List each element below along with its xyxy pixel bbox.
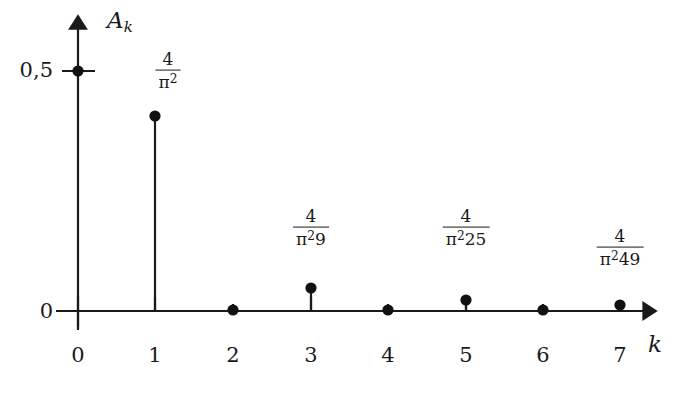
pi-exponent: 2 bbox=[170, 71, 178, 85]
x-tick-label-2: 2 bbox=[226, 345, 239, 366]
pi-symbol: π bbox=[600, 249, 611, 269]
annotation-k5-denominator: π225 bbox=[443, 228, 490, 248]
y-axis-label-name: A bbox=[107, 7, 124, 33]
pi-exponent: 2 bbox=[307, 228, 315, 242]
annotation-k1-denominator: π2 bbox=[156, 71, 181, 91]
annotation-k3-numerator: 4 bbox=[293, 208, 329, 227]
data-point-k0 bbox=[72, 65, 83, 76]
x-axis-label: k bbox=[648, 333, 662, 356]
data-point-k7 bbox=[614, 299, 625, 310]
x-axis-label-name: k bbox=[648, 331, 662, 357]
annotation-k3-denominator: π29 bbox=[293, 228, 329, 248]
y-tick-label-zero: 0 bbox=[40, 301, 53, 322]
annotation-k1: 4 π2 bbox=[156, 51, 181, 92]
x-tick-label-0: 0 bbox=[71, 345, 84, 366]
annotation-k1-numerator: 4 bbox=[156, 51, 181, 70]
fraction-bar-icon bbox=[597, 246, 644, 247]
pi-exponent: 2 bbox=[611, 248, 619, 262]
y-axis-label: Ak bbox=[107, 9, 133, 35]
fraction-bar-icon bbox=[443, 226, 490, 227]
spectrum-stem-plot: Ak k 0,5 0 0 1 2 3 4 5 6 7 4 π2 4 π29 4 … bbox=[0, 0, 679, 398]
fraction-bar-icon bbox=[293, 226, 329, 227]
annotation-k7-factor: 49 bbox=[619, 249, 641, 269]
annotation-k7-numerator: 4 bbox=[597, 228, 644, 247]
x-tick-label-4: 4 bbox=[381, 345, 394, 366]
y-tick-label-half: 0,5 bbox=[20, 60, 53, 81]
x-tick-label-3: 3 bbox=[304, 345, 317, 366]
annotation-k5: 4 π225 bbox=[443, 208, 490, 249]
x-tick-label-7: 7 bbox=[613, 345, 626, 366]
pi-symbol: π bbox=[296, 229, 307, 249]
data-point-k5 bbox=[460, 294, 471, 305]
fraction-bar-icon bbox=[156, 69, 181, 70]
pi-exponent: 2 bbox=[457, 228, 465, 242]
annotation-k5-numerator: 4 bbox=[443, 208, 490, 227]
y-axis-label-subscript: k bbox=[124, 18, 133, 36]
x-tick-label-6: 6 bbox=[536, 345, 549, 366]
data-point-k4 bbox=[382, 304, 393, 315]
x-tick-label-5: 5 bbox=[459, 345, 472, 366]
plot-canvas bbox=[0, 0, 679, 398]
data-point-k2 bbox=[227, 304, 238, 315]
data-point-k6 bbox=[537, 304, 548, 315]
annotation-k7-denominator: π249 bbox=[597, 248, 644, 268]
x-tick-label-1: 1 bbox=[148, 345, 161, 366]
pi-symbol: π bbox=[159, 72, 170, 92]
pi-symbol: π bbox=[446, 229, 457, 249]
annotation-k7: 4 π249 bbox=[597, 228, 644, 269]
data-point-k3 bbox=[305, 282, 316, 293]
annotation-k3: 4 π29 bbox=[293, 208, 329, 249]
annotation-k5-factor: 25 bbox=[465, 229, 487, 249]
annotation-k3-factor: 9 bbox=[315, 229, 326, 249]
data-point-k1 bbox=[149, 110, 160, 121]
